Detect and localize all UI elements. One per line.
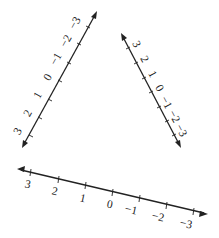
right-number-line: 3 2 1 0 −1 −2 −3 [121,33,190,148]
left-label: 2 [21,107,34,118]
right-label: 2 [138,54,151,65]
right-arrow-top-icon [121,33,127,41]
right-arrow-bottom-icon [175,140,181,148]
right-label: −3 [173,122,189,139]
bottom-label: 0 [106,198,114,211]
right-label: 0 [153,83,166,94]
right-label: 1 [146,69,159,80]
number-lines-diagram: 3 2 1 0 −1 −2 −3 3 2 1 0 −1 −2 −3 [0,0,219,238]
left-label: −3 [66,14,83,31]
bottom-label: −1 [124,202,139,216]
bottom-label: 1 [79,192,87,205]
left-number-line: 3 2 1 0 −1 −2 −3 [11,11,97,148]
right-axis-line [123,37,179,144]
bottom-tick [166,202,167,209]
bottom-label: 2 [51,185,59,198]
bottom-tick [193,208,194,215]
bottom-label: −2 [151,209,166,223]
left-label: 3 [11,125,24,136]
right-label: 3 [130,39,143,50]
left-label: −1 [47,50,64,67]
right-label: −2 [166,108,182,125]
bottom-tick [30,169,31,176]
bottom-tick [58,176,59,183]
bottom-label: −3 [179,216,194,230]
bottom-tick [85,182,86,189]
bottom-number-line: 3 2 1 0 −1 −2 −3 [17,166,208,231]
left-axis-line [24,15,95,144]
left-label: −2 [57,32,74,49]
bottom-arrow-left-icon [17,166,25,172]
left-label: 1 [31,89,44,100]
bottom-tick [112,189,113,196]
bottom-tick [139,195,140,202]
bottom-label: 3 [24,178,32,191]
left-tick [29,135,33,137]
left-arrow-top-icon [91,11,97,19]
left-label: 0 [41,71,54,82]
bottom-arrow-right-icon [199,211,208,217]
